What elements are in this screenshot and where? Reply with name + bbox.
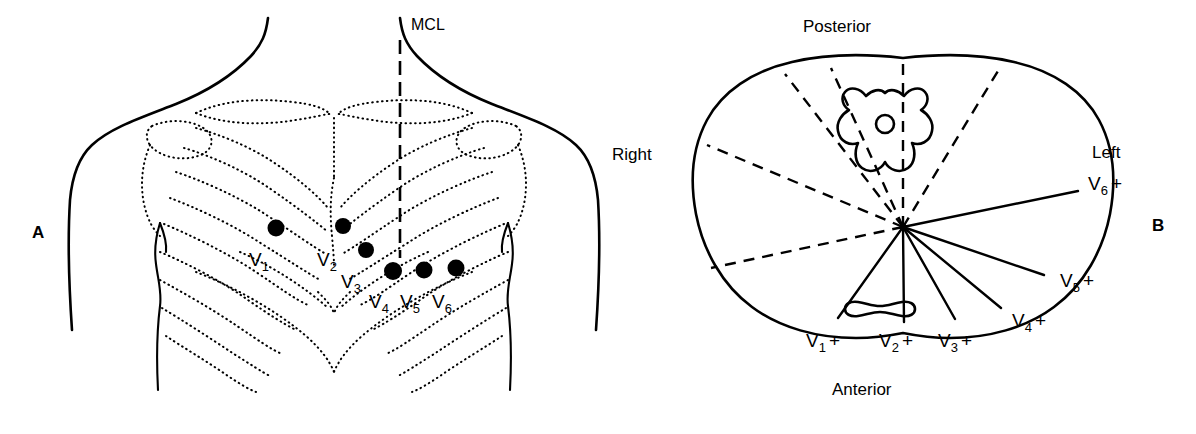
electrode-dot-v1: [268, 220, 285, 237]
orientation-label-posterior: Posterior: [803, 17, 871, 36]
lead-label-v1-subscript: 1: [262, 259, 269, 274]
lead-label-v6-plus: V6+: [1088, 173, 1122, 198]
lead-label-v6-subscript: 6: [445, 301, 452, 316]
lead-label-v6-letter: V: [432, 291, 445, 312]
lead-label-v1-plus-polarity: +: [829, 330, 840, 351]
lead-label-v2-plus-polarity: +: [902, 330, 913, 351]
lead-label-v5-plus-polarity: +: [1083, 270, 1094, 291]
electrode-dot-v2: [335, 218, 351, 234]
lead-label-v6-plus-subscript: 6: [1101, 183, 1108, 198]
lead-label-v3-plus-letter: V: [938, 330, 951, 351]
panel-a-group: MCL V1 V2 V3 V4 V5: [32, 16, 599, 392]
lead-labels-panel-a: V1 V2 V3 V4 V5 V6: [249, 249, 452, 316]
lead-label-v3-subscript: 3: [354, 281, 361, 296]
lead-axis-solid-v6: [903, 191, 1078, 227]
electrode-dots-panel-a: [268, 218, 465, 280]
lead-label-v2-plus-letter: V: [879, 330, 892, 351]
figure-svg: MCL V1 V2 V3 V4 V5: [0, 0, 1196, 434]
lead-label-v4-plus: V4+: [1012, 310, 1046, 335]
lead-label-v2-subscript: 2: [330, 259, 337, 274]
spinal-canal-circle: [876, 115, 894, 133]
lead-label-v4-plus-subscript: 4: [1025, 320, 1032, 335]
lead-label-v2: V2: [317, 249, 337, 274]
lead-label-v4-letter: V: [369, 291, 382, 312]
orientation-label-right: Right: [612, 145, 652, 164]
vertebra-organ: [838, 89, 933, 171]
lead-label-v1-letter: V: [249, 249, 262, 270]
orientation-label-anterior: Anterior: [832, 380, 892, 399]
torso-outline: [69, 18, 600, 390]
lead-label-v6: V6: [432, 291, 452, 316]
lead-axis-solid-v4: [903, 227, 1001, 308]
lead-label-v3-letter: V: [341, 271, 354, 292]
electrode-dot-v5: [416, 262, 433, 279]
lead-label-v3-plus: V3+: [938, 330, 972, 355]
orientation-label-left: Left: [1092, 143, 1121, 162]
electrode-dot-v3: [358, 242, 374, 258]
lead-label-v5-letter: V: [400, 291, 413, 312]
lead-label-v4-plus-letter: V: [1012, 310, 1025, 331]
lead-label-v1: V1: [249, 249, 269, 274]
electrode-dot-v6: [448, 260, 465, 277]
lead-label-v6-plus-letter: V: [1088, 173, 1101, 194]
lead-label-v6-plus-polarity: +: [1111, 173, 1122, 194]
electrode-dot-v4: [384, 262, 402, 280]
panel-b-group: Posterior Anterior Right Left V1+ V2+ V3…: [612, 17, 1164, 399]
lead-label-v5-subscript: 5: [413, 301, 420, 316]
electrical-center-point: [899, 223, 906, 230]
lead-axis-dashed-v6-negative: [711, 227, 903, 268]
panel-letter-a: A: [32, 223, 44, 242]
panel-letter-b: B: [1152, 216, 1164, 235]
mcl-label-text: MCL: [411, 16, 445, 33]
lead-label-v1-plus-subscript: 1: [819, 340, 826, 355]
lead-label-v5-plus-letter: V: [1060, 270, 1073, 291]
figure-root: MCL V1 V2 V3 V4 V5: [0, 0, 1196, 434]
lead-labels-panel-b: V1+ V2+ V3+ V4+ V5+ V6+: [806, 173, 1122, 355]
lead-label-v5-plus: V5+: [1060, 270, 1094, 295]
lead-label-v4-plus-polarity: +: [1035, 310, 1046, 331]
skeleton-dotted: [142, 100, 526, 392]
lead-axis-solid-v5: [903, 227, 1044, 275]
mcl-label: MCL: [411, 16, 445, 33]
lead-label-v2-plus-subscript: 2: [892, 340, 899, 355]
lead-label-v3-plus-subscript: 3: [951, 340, 958, 355]
lead-label-v5-plus-subscript: 5: [1073, 280, 1080, 295]
lead-label-v1-plus-letter: V: [806, 330, 819, 351]
lead-axis-solid-v2: [903, 227, 904, 322]
lead-label-v4-subscript: 4: [382, 301, 389, 316]
lead-label-v1-plus: V1+: [806, 330, 840, 355]
lead-label-v3-plus-polarity: +: [961, 330, 972, 351]
lead-label-v2-letter: V: [317, 249, 330, 270]
lead-label-v4: V4: [369, 291, 389, 316]
